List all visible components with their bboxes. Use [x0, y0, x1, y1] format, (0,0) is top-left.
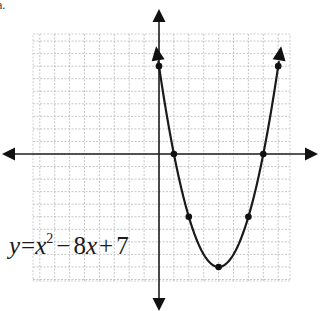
plotted-point: [245, 213, 252, 220]
x-axis: [2, 148, 318, 161]
plotted-point: [260, 151, 267, 158]
y-axis-up-arrow-icon: [153, 9, 166, 22]
plotted-point: [186, 213, 193, 220]
plotted-point: [171, 151, 178, 158]
equation-label: y=x2−8x+7: [6, 231, 129, 259]
y-axis-down-arrow-icon: [153, 298, 166, 311]
grid: [33, 34, 290, 281]
plotted-point: [275, 63, 282, 70]
x-axis-right-arrow-icon: [305, 148, 318, 161]
cropped-label-fragment: a.: [0, 0, 5, 12]
x-axis-left-arrow-icon: [2, 148, 15, 161]
plotted-point: [156, 63, 163, 70]
coordinate-graph: a. y=x2−8x+7: [0, 0, 321, 311]
plotted-point: [215, 264, 222, 271]
